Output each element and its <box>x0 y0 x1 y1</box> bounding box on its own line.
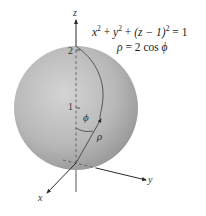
rho-label: ρ <box>97 131 102 142</box>
cartesian-equation: x2 + y2 + (z − 1)2 = 1 <box>92 26 187 38</box>
eq-rhs: 1 <box>182 26 188 38</box>
tick-label-2: 2 <box>68 46 73 56</box>
eq-phi: ϕ <box>162 41 168 53</box>
eq-z-term: (z − 1) <box>134 26 165 38</box>
y-axis-label: y <box>148 175 152 185</box>
z-axis-label: z <box>73 8 77 18</box>
eq-rhs-cos: = 2 cos <box>125 41 158 53</box>
eq-rho: ρ <box>117 41 123 53</box>
y-axis <box>96 168 146 180</box>
eq-z-exp: 2 <box>166 24 170 33</box>
x-axis-label: x <box>38 193 42 203</box>
tick-label-1: 1 <box>68 102 73 112</box>
phi-label: ϕ <box>83 112 89 123</box>
eq-y-exp: 2 <box>118 24 122 33</box>
eq-x-exp: 2 <box>97 24 101 33</box>
spherical-equation: ρ = 2 cos ϕ <box>117 41 168 53</box>
